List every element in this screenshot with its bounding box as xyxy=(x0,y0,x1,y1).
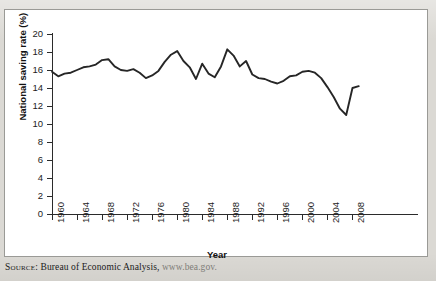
source-note: Source: Bureau of Economic Analysis, www… xyxy=(5,262,217,272)
source-url[interactable]: www.bea.gov. xyxy=(162,262,217,272)
saving-rate-line-series xyxy=(5,10,429,258)
page-background: 02468101214161820 1960196419681972197619… xyxy=(0,0,436,281)
source-label: Source: xyxy=(5,262,38,272)
source-body: Bureau of Economic Analysis, xyxy=(38,262,162,272)
figure-frame: 02468101214161820 1960196419681972197619… xyxy=(4,9,428,257)
